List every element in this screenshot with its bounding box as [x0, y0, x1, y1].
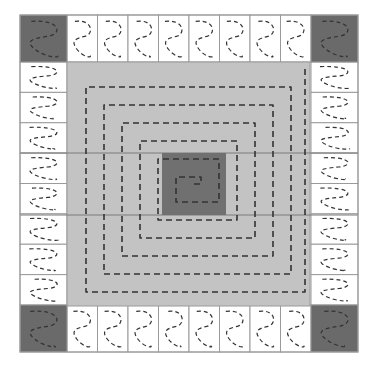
edge-cell — [20, 62, 67, 92]
edge-cell — [311, 275, 358, 305]
edge-cell — [281, 305, 312, 352]
edge-cell — [20, 184, 67, 214]
corner-cell-top-left — [20, 15, 67, 62]
corner-cell-top-right — [311, 15, 358, 62]
edge-cell — [20, 153, 67, 183]
edge-cell — [20, 214, 67, 244]
corner-cell-bottom-left — [20, 305, 67, 352]
edge-cell — [20, 244, 67, 274]
edge-cell — [20, 123, 67, 153]
edge-cell — [250, 305, 281, 352]
spiral-grid-diagram — [0, 0, 390, 370]
corner-cell-bottom-right — [311, 305, 358, 352]
edge-cell — [311, 244, 358, 274]
edge-cell — [311, 214, 358, 244]
edge-cell — [311, 184, 358, 214]
edge-cell — [311, 92, 358, 122]
